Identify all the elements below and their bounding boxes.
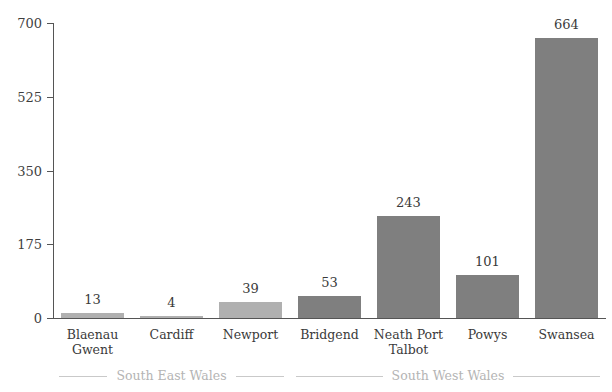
x-axis-label: BlaenauGwent [53, 327, 132, 357]
x-axis-label-line: Gwent [53, 342, 132, 357]
bars-container: 1343953243101664 [53, 23, 606, 318]
group-bands: South East WalesSouth West Wales [53, 366, 606, 388]
bar-slot[interactable]: 243 [377, 23, 440, 318]
x-axis-label: Neath PortTalbot [369, 327, 448, 357]
group-rule-left [59, 376, 107, 377]
x-axis-label: Cardiff [132, 327, 211, 342]
y-tick-label: 0 [0, 312, 42, 325]
bar[interactable] [535, 38, 598, 318]
x-axis-label-line: Powys [448, 327, 527, 342]
y-tick-label: 350 [0, 165, 42, 178]
x-axis-label-line: Cardiff [132, 327, 211, 342]
group-band: South West Wales [296, 366, 600, 386]
bar[interactable] [298, 296, 361, 318]
bar-slot[interactable]: 4 [140, 23, 203, 318]
bar-value-label: 101 [456, 255, 519, 268]
group-label: South West Wales [392, 370, 505, 383]
group-band: South East Wales [59, 366, 284, 386]
group-label: South East Wales [116, 370, 226, 383]
bar-slot[interactable]: 13 [61, 23, 124, 318]
x-axis-category-labels: BlaenauGwentCardiffNewportBridgendNeath … [53, 327, 606, 361]
bar-value-label: 39 [219, 282, 282, 295]
bar-value-label: 13 [61, 293, 124, 306]
bar-slot[interactable]: 664 [535, 23, 598, 318]
x-axis-label-line: Neath Port [369, 327, 448, 342]
chart-title [0, 0, 612, 1]
bar-slot[interactable]: 53 [298, 23, 361, 318]
bar-chart: 0175350525700 1343953243101664 BlaenauGw… [0, 0, 612, 392]
y-tick-label: 525 [0, 91, 42, 104]
x-axis-label: Bridgend [290, 327, 369, 342]
bar-value-label: 664 [535, 18, 598, 31]
x-axis-label-line: Swansea [527, 327, 606, 342]
bar-value-label: 4 [140, 296, 203, 309]
bar[interactable] [456, 275, 519, 318]
bar[interactable] [140, 316, 203, 318]
bar[interactable] [377, 216, 440, 318]
bar-value-label: 53 [298, 276, 361, 289]
x-axis-label: Newport [211, 327, 290, 342]
bar[interactable] [219, 302, 282, 318]
bar[interactable] [61, 313, 124, 318]
x-axis-label-line: Bridgend [290, 327, 369, 342]
x-axis-label: Powys [448, 327, 527, 342]
x-axis-label: Swansea [527, 327, 606, 342]
group-rule-left [296, 376, 383, 377]
x-axis-line [53, 318, 606, 319]
bar-slot[interactable]: 39 [219, 23, 282, 318]
x-axis-label-line: Blaenau [53, 327, 132, 342]
bar-slot[interactable]: 101 [456, 23, 519, 318]
y-tick-label: 700 [0, 17, 42, 30]
x-axis-label-line: Talbot [369, 342, 448, 357]
group-rule-right [236, 376, 284, 377]
x-axis-label-line: Newport [211, 327, 290, 342]
group-rule-right [513, 376, 600, 377]
y-tick-mark [47, 318, 53, 319]
y-tick-label: 175 [0, 238, 42, 251]
bar-value-label: 243 [377, 196, 440, 209]
